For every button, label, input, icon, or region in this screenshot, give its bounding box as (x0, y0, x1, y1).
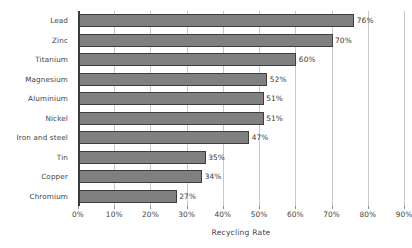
bar-value-titanium: 60% (299, 55, 316, 64)
bar-row: 76% (79, 11, 404, 31)
x-tick-mark-40 (223, 206, 224, 209)
bar-value-chromium: 27% (179, 192, 196, 201)
bar-magnesium (79, 73, 267, 86)
x-tick-label-20: 20% (142, 210, 159, 219)
plot-area: 76% 70% 60% 52% 51% 51% (78, 11, 404, 206)
x-tick-mark-60 (295, 206, 296, 209)
x-tick-mark-80 (368, 206, 369, 209)
x-axis-ticks: 0%10%20%30%40%50%60%70%80%90% (78, 206, 404, 222)
y-axis-label-zinc: Zinc (0, 31, 73, 51)
y-axis-label-copper: Copper (0, 167, 73, 187)
x-tick-label-10: 10% (106, 210, 123, 219)
x-tick-label-30: 30% (178, 210, 195, 219)
x-tick-label-40: 40% (215, 210, 232, 219)
bar-chromium (79, 190, 177, 203)
x-tick-mark-90 (404, 206, 405, 209)
bar-row: 52% (79, 70, 404, 90)
bar-series: 76% 70% 60% 52% 51% 51% (79, 11, 404, 206)
x-tick-mark-50 (259, 206, 260, 209)
x-tick-label-0: 0% (72, 210, 84, 219)
bar-value-magnesium: 52% (270, 75, 287, 84)
gridline-90 (404, 11, 405, 206)
y-axis-label-magnesium: Magnesium (0, 70, 73, 90)
bar-tin (79, 151, 206, 164)
x-tick-label-50: 50% (251, 210, 268, 219)
x-tick-label-90: 90% (396, 210, 412, 219)
bar-value-aluminium: 51% (266, 94, 283, 103)
bar-row: 51% (79, 109, 404, 129)
bar-row: 27% (79, 187, 404, 207)
x-tick-mark-30 (187, 206, 188, 209)
x-axis-title: Recycling Rate (78, 228, 404, 237)
x-tick-mark-10 (114, 206, 115, 209)
bar-value-nickel: 51% (266, 114, 283, 123)
y-axis-label-iron-and-steel: Iron and steel (0, 128, 73, 148)
bar-row: 60% (79, 50, 404, 70)
y-axis-label-titanium: Titanium (0, 50, 73, 70)
bar-copper (79, 170, 202, 183)
bar-row: 47% (79, 128, 404, 148)
x-tick-label-70: 70% (323, 210, 340, 219)
y-axis-category-labels: Lead Zinc Titanium Magnesium Aluminium N… (0, 11, 73, 206)
bar-row: 35% (79, 148, 404, 168)
bar-lead (79, 14, 354, 27)
bar-titanium (79, 53, 296, 66)
bar-value-iron-and-steel: 47% (252, 133, 269, 142)
y-axis-label-aluminium: Aluminium (0, 89, 73, 109)
bar-row: 70% (79, 31, 404, 51)
bar-value-lead: 76% (357, 16, 374, 25)
x-tick-mark-0 (78, 206, 79, 209)
y-axis-label-tin: Tin (0, 148, 73, 168)
x-tick-mark-20 (150, 206, 151, 209)
y-axis-label-nickel: Nickel (0, 109, 73, 129)
bar-value-zinc: 70% (335, 36, 352, 45)
y-axis-label-lead: Lead (0, 11, 73, 31)
bar-value-copper: 34% (205, 172, 222, 181)
bar-nickel (79, 112, 264, 125)
y-axis-label-chromium: Chromium (0, 187, 73, 207)
bar-iron-and-steel (79, 131, 249, 144)
x-tick-label-80: 80% (359, 210, 376, 219)
bar-zinc (79, 34, 333, 47)
bar-aluminium (79, 92, 264, 105)
x-tick-mark-70 (332, 206, 333, 209)
bar-row: 34% (79, 167, 404, 187)
bar-value-tin: 35% (208, 153, 225, 162)
bar-row: 51% (79, 89, 404, 109)
x-tick-label-60: 60% (287, 210, 304, 219)
